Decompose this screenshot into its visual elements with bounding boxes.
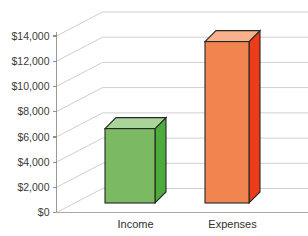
- bar-chart-3d: $0$2,000$4,000$6,000$8,000$10,000$12,000…: [0, 0, 308, 236]
- bar-side-face: [249, 31, 260, 203]
- y-tick-label: $10,000: [12, 80, 50, 92]
- bar-income[interactable]: [105, 118, 166, 203]
- y-tick-label: $4,000: [17, 156, 49, 168]
- bar-top-face: [105, 118, 166, 129]
- x-category-label-income: Income: [117, 218, 153, 230]
- chart-container: $0$2,000$4,000$6,000$8,000$10,000$12,000…: [0, 0, 308, 236]
- x-category-label-expenses: Expenses: [208, 218, 257, 230]
- y-tick-label: $2,000: [17, 181, 49, 193]
- bar-front-face: [105, 129, 155, 203]
- y-tick-label: $14,000: [12, 30, 50, 42]
- y-tick-label: $6,000: [17, 131, 49, 143]
- bar-side-face: [155, 118, 166, 203]
- y-tick-label: $8,000: [17, 105, 49, 117]
- bar-front-face: [205, 42, 249, 203]
- bar-expenses[interactable]: [205, 31, 260, 203]
- y-tick-label: $12,000: [12, 55, 50, 67]
- y-tick-label: $0: [38, 206, 50, 218]
